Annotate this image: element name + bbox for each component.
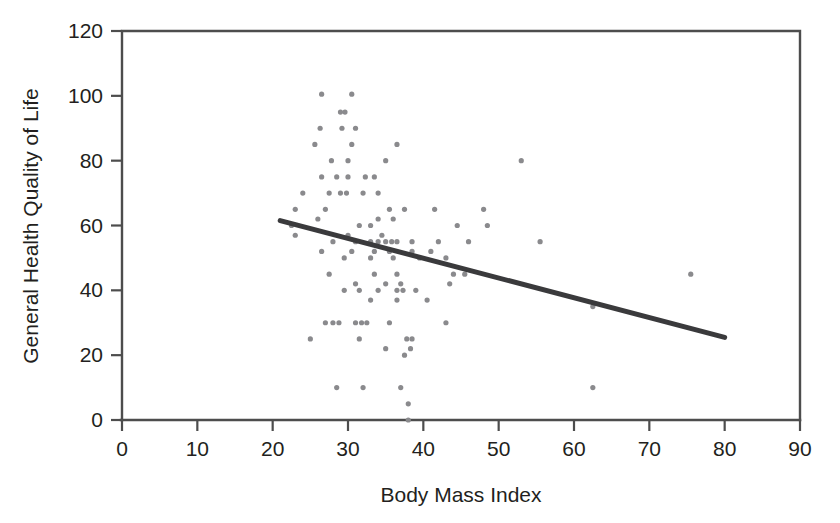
data-point-92 (308, 336, 313, 341)
data-point-103 (406, 401, 411, 406)
y-axis-title: General Health Quality of Life (19, 88, 42, 363)
data-point-76 (376, 288, 381, 293)
data-point-10 (329, 158, 334, 163)
data-point-51 (466, 239, 471, 244)
data-point-8 (349, 142, 354, 147)
data-point-25 (293, 207, 298, 212)
data-point-60 (368, 255, 373, 260)
data-point-36 (368, 223, 373, 228)
data-point-102 (590, 385, 595, 390)
data-point-21 (338, 190, 343, 195)
x-tick-label-80: 80 (713, 437, 736, 460)
data-point-73 (447, 281, 452, 286)
data-point-28 (402, 207, 407, 212)
data-point-24 (376, 190, 381, 195)
data-point-94 (404, 336, 409, 341)
data-point-72 (398, 281, 403, 286)
chart-canvas: 020406080100120 0102030405060708090 Body… (0, 0, 840, 523)
data-point-23 (360, 190, 365, 195)
data-point-37 (455, 223, 460, 228)
data-point-96 (383, 346, 388, 351)
data-point-77 (394, 288, 399, 293)
x-axis-title: Body Mass Index (380, 483, 542, 506)
data-point-41 (379, 233, 384, 238)
data-point-101 (398, 385, 403, 390)
data-point-97 (408, 346, 413, 351)
data-point-42 (330, 239, 335, 244)
data-point-81 (394, 297, 399, 302)
data-point-26 (323, 207, 328, 212)
data-point-6 (353, 126, 358, 131)
x-tick-label-20: 20 (261, 437, 284, 460)
data-point-82 (425, 297, 430, 302)
data-point-50 (436, 239, 441, 244)
data-point-66 (394, 272, 399, 277)
y-tick-label-120: 120 (68, 19, 103, 42)
data-point-3 (342, 109, 347, 114)
data-point-69 (688, 272, 693, 277)
data-point-75 (357, 288, 362, 293)
data-point-85 (330, 320, 335, 325)
data-point-5 (339, 126, 344, 131)
data-point-68 (462, 272, 467, 277)
y-tick-label-60: 60 (80, 214, 103, 237)
data-point-2 (338, 109, 343, 114)
data-point-98 (402, 353, 407, 358)
data-point-55 (372, 249, 377, 254)
data-point-89 (364, 320, 369, 325)
data-point-19 (300, 190, 305, 195)
data-point-80 (368, 297, 373, 302)
data-point-32 (376, 216, 381, 221)
data-point-31 (315, 216, 320, 221)
data-point-13 (519, 158, 524, 163)
x-tick-label-70: 70 (638, 437, 661, 460)
data-point-15 (345, 174, 350, 179)
data-point-99 (334, 385, 339, 390)
data-point-100 (360, 385, 365, 390)
data-point-65 (372, 272, 377, 277)
data-point-63 (443, 255, 448, 260)
x-tick-label-60: 60 (562, 437, 585, 460)
data-point-78 (400, 288, 405, 293)
data-point-48 (394, 239, 399, 244)
data-point-61 (391, 255, 396, 260)
data-point-14 (334, 174, 339, 179)
data-point-16 (363, 174, 368, 179)
y-tick-label-40: 40 (80, 278, 103, 301)
x-tick-label-90: 90 (788, 437, 811, 460)
data-point-38 (485, 223, 490, 228)
data-point-71 (383, 281, 388, 286)
x-tick-label-50: 50 (487, 437, 510, 460)
data-point-90 (387, 320, 392, 325)
data-point-88 (359, 320, 364, 325)
x-tick-label-30: 30 (336, 437, 359, 460)
data-point-1 (349, 92, 354, 97)
data-point-58 (428, 249, 433, 254)
data-point-104 (406, 417, 411, 422)
data-point-4 (318, 126, 323, 131)
y-tick-label-80: 80 (80, 149, 103, 172)
data-point-54 (349, 249, 354, 254)
data-point-67 (451, 272, 456, 277)
data-point-86 (336, 320, 341, 325)
data-point-9 (394, 142, 399, 147)
x-tick-label-10: 10 (186, 437, 209, 460)
data-point-53 (319, 249, 324, 254)
data-point-0 (319, 92, 324, 97)
data-point-59 (342, 255, 347, 260)
data-point-79 (413, 288, 418, 293)
data-point-27 (387, 207, 392, 212)
data-point-47 (389, 239, 394, 244)
data-point-33 (391, 216, 396, 221)
data-point-20 (327, 190, 332, 195)
data-point-87 (353, 320, 358, 325)
data-point-30 (481, 207, 486, 212)
data-point-35 (357, 223, 362, 228)
data-point-22 (344, 190, 349, 195)
data-point-17 (319, 174, 324, 179)
data-point-91 (443, 320, 448, 325)
data-point-95 (409, 336, 414, 341)
data-point-49 (409, 239, 414, 244)
data-point-11 (345, 158, 350, 163)
x-tick-label-40: 40 (412, 437, 435, 460)
